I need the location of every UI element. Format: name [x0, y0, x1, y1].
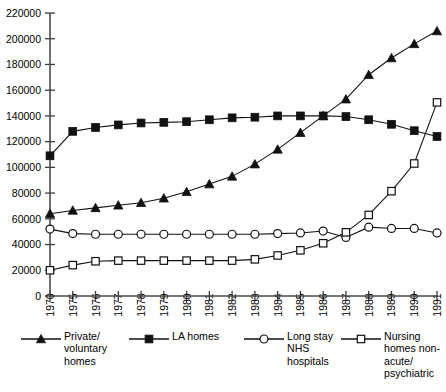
data-point-marker: [182, 187, 191, 195]
data-point-marker: [183, 230, 191, 238]
y-tick-label: 80000: [12, 187, 41, 199]
y-axis-labels: 0200004000060000800001000001200001400001…: [6, 7, 41, 302]
legend-entry: Nursing homes non- acute/ psychiatric: [340, 330, 440, 380]
data-point-marker: [46, 225, 54, 233]
y-tick-label: 0: [35, 290, 41, 302]
data-point-marker: [183, 257, 190, 264]
series-4: [46, 99, 440, 274]
y-tick-label: 140000: [6, 110, 41, 122]
y-tick-label: 20000: [12, 264, 41, 276]
data-point-marker: [296, 229, 304, 237]
data-point-marker: [205, 116, 213, 124]
data-point-marker: [251, 230, 259, 238]
y-tick-label: 40000: [12, 238, 41, 250]
data-point-marker: [251, 113, 259, 121]
data-point-marker: [46, 267, 53, 274]
data-point-marker: [342, 229, 349, 236]
legend-marker-open-circle-icon: [243, 331, 285, 347]
data-point-marker: [69, 127, 77, 135]
legend-entry: LA homes: [128, 330, 219, 347]
data-point-marker: [410, 127, 418, 135]
data-point-marker: [137, 230, 145, 238]
data-point-marker: [411, 160, 418, 167]
y-tick-label: 180000: [6, 58, 41, 70]
chart-canvas: 0200004000060000800001000001200001400001…: [0, 0, 446, 330]
y-tick-label: 200000: [6, 33, 41, 45]
data-point-marker: [319, 227, 327, 235]
data-point-marker: [92, 124, 100, 132]
data-point-marker: [205, 230, 213, 238]
data-point-marker: [433, 229, 441, 237]
data-point-marker: [342, 113, 350, 121]
y-tick-label: 120000: [6, 135, 41, 147]
legend-entry: Private/ voluntary homes: [20, 330, 107, 367]
data-point-marker: [92, 230, 100, 238]
data-point-marker: [273, 145, 282, 153]
data-point-marker: [205, 179, 214, 187]
series-3: [46, 223, 441, 241]
data-point-marker: [160, 257, 167, 264]
data-point-marker: [365, 211, 372, 218]
legend-marker-open-square-icon: [340, 331, 382, 347]
data-point-marker: [319, 240, 326, 247]
series-line: [50, 102, 437, 270]
data-point-marker: [274, 112, 282, 120]
data-point-marker: [69, 261, 76, 268]
series-line: [50, 116, 437, 156]
data-point-marker: [387, 53, 396, 61]
data-point-marker: [319, 112, 327, 120]
data-point-marker: [183, 118, 191, 126]
data-point-marker: [364, 70, 373, 78]
y-tick-label: 220000: [6, 7, 41, 19]
data-point-marker: [250, 160, 259, 168]
data-point-marker: [206, 257, 213, 264]
series-2: [46, 112, 441, 160]
legend-entry: Long stay NHS hospitals: [243, 330, 333, 367]
legend-label: Private/ voluntary homes: [64, 330, 107, 367]
data-point-marker: [297, 112, 305, 120]
data-point-marker: [410, 224, 418, 232]
y-tick-label: 60000: [12, 213, 41, 225]
data-point-marker: [365, 223, 373, 231]
legend-label: LA homes: [172, 330, 219, 342]
chart-root: 0200004000060000800001000001200001400001…: [0, 0, 446, 392]
chart-legend: Private/ voluntary homesLA homesLong sta…: [0, 330, 446, 392]
line-chart: 0200004000060000800001000001200001400001…: [0, 0, 446, 330]
data-point-marker: [228, 257, 235, 264]
data-point-marker: [365, 116, 373, 124]
data-point-marker: [114, 121, 122, 129]
data-point-marker: [296, 128, 305, 136]
legend-label: Nursing homes non- acute/ psychiatric: [384, 330, 440, 380]
legend-label: Long stay NHS hospitals: [287, 330, 333, 367]
data-point-marker: [160, 118, 168, 126]
data-point-marker: [228, 114, 236, 122]
data-point-marker: [228, 172, 237, 180]
data-point-marker: [433, 133, 441, 141]
data-point-marker: [387, 224, 395, 232]
data-point-marker: [115, 257, 122, 264]
data-point-marker: [228, 230, 236, 238]
data-point-marker: [160, 230, 168, 238]
data-point-marker: [114, 230, 122, 238]
data-point-marker: [297, 247, 304, 254]
data-point-marker: [69, 230, 77, 238]
series-line: [50, 227, 437, 237]
data-point-marker: [137, 119, 145, 127]
data-point-marker: [92, 258, 99, 265]
legend-marker-filled-square-icon: [128, 331, 170, 347]
y-tick-label: 100000: [6, 161, 41, 173]
data-point-marker: [46, 152, 54, 160]
data-point-marker: [274, 252, 281, 259]
series-layer: [45, 26, 441, 274]
data-point-marker: [388, 187, 395, 194]
data-point-marker: [433, 99, 440, 106]
data-point-marker: [251, 256, 258, 263]
data-point-marker: [137, 257, 144, 264]
data-point-marker: [274, 230, 282, 238]
y-tick-label: 160000: [6, 84, 41, 96]
data-point-marker: [410, 39, 419, 47]
data-point-marker: [432, 26, 441, 34]
legend-marker-filled-triangle-icon: [20, 331, 62, 347]
data-point-marker: [388, 120, 396, 128]
